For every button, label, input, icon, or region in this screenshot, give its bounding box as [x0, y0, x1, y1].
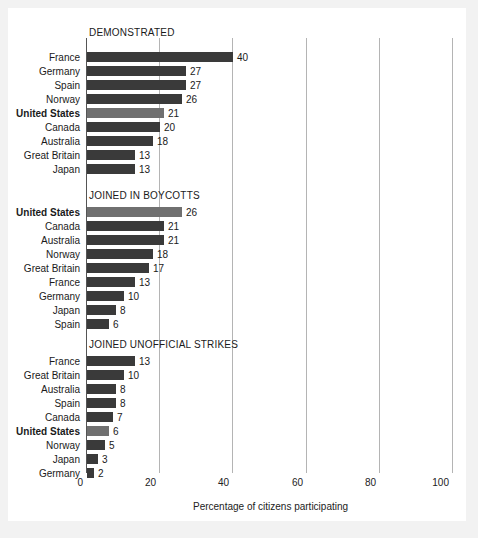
bar	[87, 221, 164, 231]
panel-title-3: JOINED UNOFFICIAL STRIKES	[89, 339, 238, 350]
bar	[87, 150, 135, 160]
bar	[87, 468, 94, 478]
x-tick-label-60: 60	[292, 477, 305, 488]
bar	[87, 164, 135, 174]
bar-category-label: United States	[16, 427, 80, 437]
bar-value-label: 26	[186, 208, 197, 218]
bar	[87, 291, 124, 301]
bar-value-label: 7	[117, 413, 123, 423]
bar	[87, 319, 109, 329]
bar-value-label: 10	[128, 292, 139, 302]
bar-category-label: Australia	[41, 385, 80, 395]
bar-category-label: France	[49, 357, 80, 367]
bar-category-label: United States	[16, 208, 80, 218]
bar-category-label: Norway	[46, 250, 80, 260]
bar-value-label: 13	[139, 151, 150, 161]
bar-category-label: Great Britain	[24, 264, 80, 274]
panel-title-2: JOINED IN BOYCOTTS	[89, 190, 200, 201]
bar-value-label: 20	[164, 123, 175, 133]
bar-category-label: France	[49, 278, 80, 288]
bar-category-label: Norway	[46, 441, 80, 451]
chart-card: 020406080100Percentage of citizens parti…	[8, 8, 466, 521]
bar-category-label: Spain	[54, 81, 80, 91]
bar	[87, 108, 164, 118]
bar-value-label: 10	[128, 371, 139, 381]
bar	[87, 52, 233, 62]
bar-value-label: 27	[190, 81, 201, 91]
bar-value-label: 13	[139, 278, 150, 288]
page-background: 020406080100Percentage of citizens parti…	[0, 0, 478, 538]
bar-category-label: Germany	[39, 292, 80, 302]
bar	[87, 136, 153, 146]
bar	[87, 263, 149, 273]
bar-category-label: Australia	[41, 137, 80, 147]
x-tick-label-40: 40	[218, 477, 231, 488]
bar	[87, 207, 182, 217]
bar-category-label: Canada	[45, 123, 80, 133]
x-tick-label-20: 20	[145, 477, 158, 488]
bar-value-label: 8	[120, 399, 126, 409]
bar-category-label: Spain	[54, 320, 80, 330]
bar	[87, 249, 153, 259]
gridline-40	[232, 38, 233, 473]
bar-value-label: 8	[120, 306, 126, 316]
bar	[87, 235, 164, 245]
bar-value-label: 13	[139, 165, 150, 175]
bar-value-label: 6	[113, 427, 119, 437]
bar-value-label: 13	[139, 357, 150, 367]
grouped-bar-chart: 020406080100Percentage of citizens parti…	[8, 8, 466, 521]
bar-category-label: Japan	[53, 455, 80, 465]
bar-category-label: Germany	[39, 469, 80, 479]
bar	[87, 384, 116, 394]
gridline-60	[306, 38, 307, 473]
bar-category-label: United States	[16, 109, 80, 119]
gridline-100	[452, 38, 453, 473]
bar-category-label: Japan	[53, 165, 80, 175]
bar-value-label: 40	[237, 53, 248, 63]
bar-category-label: Canada	[45, 413, 80, 423]
bar	[87, 66, 186, 76]
bar-value-label: 21	[168, 109, 179, 119]
bar	[87, 370, 124, 380]
bar-category-label: Japan	[53, 306, 80, 316]
bar-value-label: 6	[113, 320, 119, 330]
x-axis-title: Percentage of citizens participating	[193, 501, 348, 512]
panel-title-1: DEMONSTRATED	[89, 27, 175, 38]
bar	[87, 277, 135, 287]
bar	[87, 440, 105, 450]
bar	[87, 94, 182, 104]
bar-category-label: Spain	[54, 399, 80, 409]
bar	[87, 412, 113, 422]
bar-category-label: France	[49, 53, 80, 63]
bar-category-label: Great Britain	[24, 371, 80, 381]
bar-value-label: 2	[98, 469, 104, 479]
bar-value-label: 8	[120, 385, 126, 395]
bar-category-label: Norway	[46, 95, 80, 105]
x-tick-label-100: 100	[432, 477, 451, 488]
bar	[87, 426, 109, 436]
bar	[87, 356, 135, 366]
bar-value-label: 18	[157, 250, 168, 260]
gridline-80	[379, 38, 380, 473]
bar	[87, 80, 186, 90]
bar-value-label: 21	[168, 236, 179, 246]
bar-value-label: 21	[168, 222, 179, 232]
bar-category-label: Canada	[45, 222, 80, 232]
bar-value-label: 5	[109, 441, 115, 451]
bar	[87, 305, 116, 315]
bar-category-label: Germany	[39, 67, 80, 77]
bar-value-label: 18	[157, 137, 168, 147]
bar-category-label: Australia	[41, 236, 80, 246]
bar-value-label: 3	[102, 455, 108, 465]
bar	[87, 122, 160, 132]
bar-value-label: 27	[190, 67, 201, 77]
bar-value-label: 17	[153, 264, 164, 274]
bar-value-label: 26	[186, 95, 197, 105]
bar	[87, 454, 98, 464]
x-tick-label-80: 80	[365, 477, 378, 488]
bar-category-label: Great Britain	[24, 151, 80, 161]
bar	[87, 398, 116, 408]
